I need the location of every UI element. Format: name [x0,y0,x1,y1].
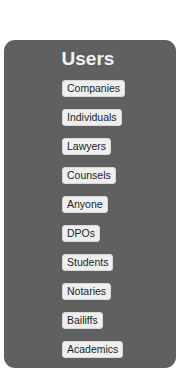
lawyers-button[interactable]: Lawyers [62,138,111,155]
individuals-button[interactable]: Individuals [62,109,122,126]
list-item: Notaries [62,281,125,310]
students-button[interactable]: Students [62,254,113,271]
list-item: Anyone [62,194,125,223]
anyone-button[interactable]: Anyone [62,196,108,213]
dpos-button[interactable]: DPOs [62,225,100,242]
users-panel: Users Companies Individuals Lawyers Coun… [4,40,176,368]
academics-button[interactable]: Academics [62,341,123,358]
list-item: Counsels [62,165,125,194]
panel-title: Users [4,48,176,70]
bailiffs-button[interactable]: Bailiffs [62,312,103,329]
user-type-list: Companies Individuals Lawyers Counsels A… [62,78,125,368]
list-item: Students [62,252,125,281]
counsels-button[interactable]: Counsels [62,167,116,184]
list-item: Academics [62,339,125,368]
list-item: Lawyers [62,136,125,165]
companies-button[interactable]: Companies [62,80,125,97]
notaries-button[interactable]: Notaries [62,283,111,300]
list-item: Individuals [62,107,125,136]
list-item: Companies [62,78,125,107]
list-item: DPOs [62,223,125,252]
list-item: Bailiffs [62,310,125,339]
